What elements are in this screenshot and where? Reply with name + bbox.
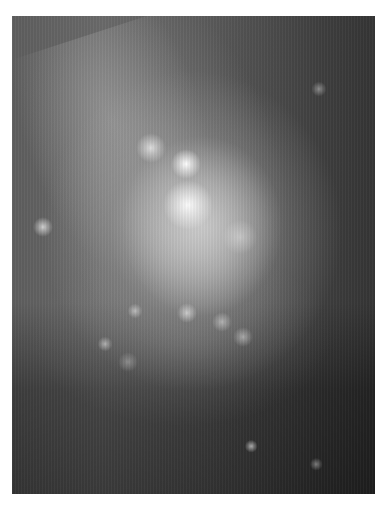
- galaxy-image: [12, 16, 375, 494]
- sensor-noise: [12, 16, 375, 494]
